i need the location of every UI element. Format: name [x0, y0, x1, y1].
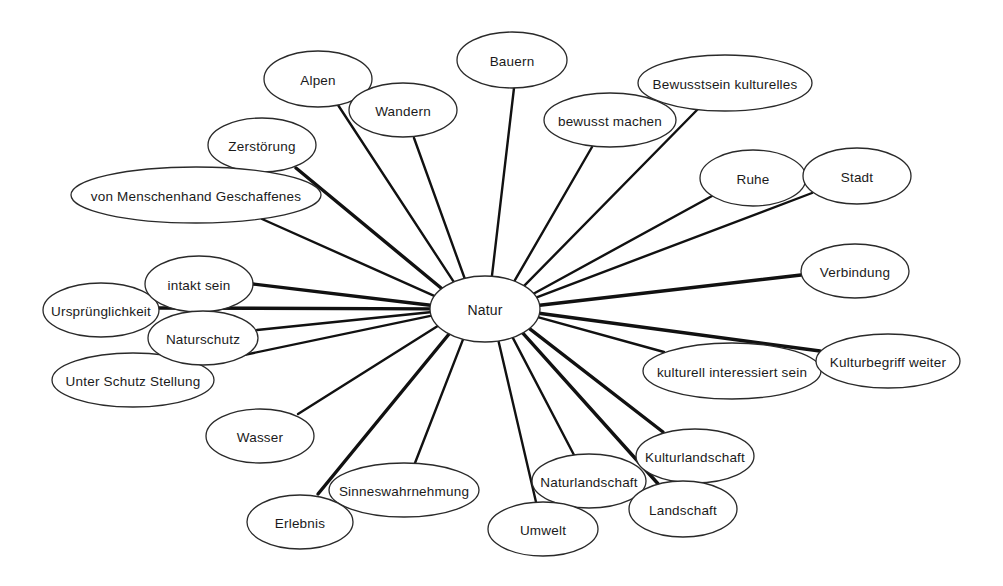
center-node[interactable]: Natur [430, 276, 540, 342]
node-label: intakt sein [168, 278, 231, 293]
node-label: Unter Schutz Stellung [66, 374, 201, 389]
node-intakt-sein[interactable]: intakt sein [145, 256, 253, 312]
node-naturschutz[interactable]: Naturschutz [148, 311, 258, 365]
node-kulturell-interessiert[interactable]: kulturell interessiert sein [643, 343, 821, 399]
node-bewusstsein-kulturelles[interactable]: Bewusstsein kulturelles [638, 55, 812, 111]
node-label: Zerstörung [228, 139, 295, 154]
node-umwelt[interactable]: Umwelt [488, 502, 598, 556]
node-von-menschenhand[interactable]: von Menschenhand Geschaffenes [71, 167, 321, 223]
edge-natur-kulturbegriff-weiter [535, 313, 820, 351]
node-label: Wasser [237, 430, 284, 445]
node-label: Umwelt [520, 523, 566, 538]
node-ruhe[interactable]: Ruhe [700, 150, 806, 206]
node-label: Bewusstsein kulturelles [653, 77, 798, 92]
node-bauern[interactable]: Bauern [457, 32, 567, 88]
node-wandern[interactable]: Wandern [349, 83, 457, 137]
node-label: von Menschenhand Geschaffenes [91, 189, 301, 204]
node-label: Kulturbegriff weiter [830, 355, 947, 370]
edge-natur-intakt-sein [253, 284, 435, 306]
node-naturlandschaft[interactable]: Naturlandschaft [532, 454, 646, 508]
nodes: AlpenWandernBauernbewusst machenBewussts… [43, 32, 960, 556]
node-label: Landschaft [649, 503, 717, 518]
node-label: Kulturlandschaft [645, 450, 745, 465]
edge-natur-stadt [533, 193, 812, 299]
edge-natur-zerstoerung [296, 168, 444, 291]
node-kulturlandschaft[interactable]: Kulturlandschaft [636, 429, 754, 483]
node-stadt[interactable]: Stadt [803, 148, 911, 204]
node-label: Stadt [841, 170, 874, 185]
node-erlebnis[interactable]: Erlebnis [247, 495, 353, 549]
node-label: Bauern [490, 54, 535, 69]
node-label: Naturlandschaft [540, 475, 638, 490]
node-verbindung[interactable]: Verbindung [801, 244, 909, 298]
node-label: Sinneswahrnehmung [339, 484, 469, 499]
node-kulturbegriff-weiter[interactable]: Kulturbegriff weiter [816, 334, 960, 388]
node-label: Wandern [375, 104, 431, 119]
edge-natur-sinneswahrnehmung [415, 337, 464, 463]
node-label: Ruhe [736, 172, 769, 187]
edge-natur-bauern [492, 88, 514, 279]
node-urspruenglichkeit[interactable]: Ursprünglichkeit [43, 283, 159, 337]
node-label: kulturell interessiert sein [657, 365, 807, 380]
node-sinneswahrnehmung[interactable]: Sinneswahrnehmung [329, 463, 479, 517]
edge-natur-umwelt [498, 338, 536, 502]
edge-natur-kulturlandschaft [527, 326, 663, 432]
node-label: Alpen [300, 73, 336, 88]
edge-natur-bewusst-machen [513, 147, 592, 284]
mind-map: AlpenWandernBauernbewusst machenBewussts… [0, 0, 1003, 586]
node-landschaft[interactable]: Landschaft [629, 481, 737, 537]
edge-natur-von-menschenhand [262, 219, 438, 298]
node-label: Erlebnis [275, 516, 325, 531]
node-label: Verbindung [820, 265, 890, 280]
node-label: Naturschutz [166, 332, 240, 347]
node-label: bewusst machen [558, 114, 662, 129]
edge-natur-ruhe [530, 196, 712, 296]
center-label: Natur [467, 302, 502, 318]
node-bewusst-machen[interactable]: bewusst machen [544, 93, 676, 147]
node-label: Ursprünglichkeit [51, 304, 151, 319]
node-wasser[interactable]: Wasser [206, 409, 314, 463]
node-zerstoerung[interactable]: Zerstörung [208, 118, 316, 172]
edge-natur-verbindung [535, 275, 801, 306]
